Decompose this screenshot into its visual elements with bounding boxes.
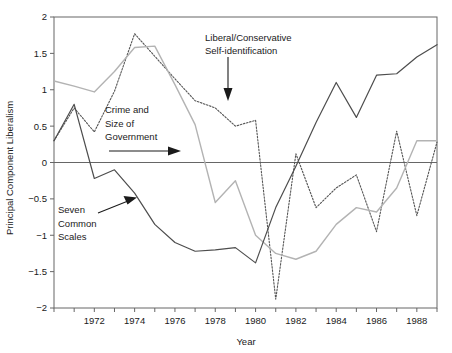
annotation-text-line: Common: [58, 218, 97, 229]
annotation-text-line: Size of: [105, 118, 134, 129]
x-tick-label: 1976: [164, 315, 185, 326]
x-tick-label: 1984: [326, 315, 347, 326]
annotation-text-line: Liberal/Conservative: [205, 32, 292, 43]
x-tick-label: 1982: [285, 315, 306, 326]
y-tick-label: 1: [42, 84, 47, 95]
y-tick-label: 2: [42, 11, 47, 22]
y-tick-label: −2: [36, 302, 47, 313]
x-tick-label: 1980: [245, 315, 266, 326]
y-tick-label: 0: [42, 157, 47, 168]
x-tick-label: 1974: [124, 315, 145, 326]
annotation-text-line: Scales: [58, 231, 87, 242]
y-tick-label: 0.5: [34, 121, 47, 132]
annotation-text-line: Seven: [58, 204, 85, 215]
x-tick-label: 1972: [84, 315, 105, 326]
y-tick-label: −1.5: [28, 266, 47, 277]
x-tick-label: 1988: [406, 315, 427, 326]
y-tick-label: −0.5: [28, 193, 47, 204]
x-tick-label: 1986: [366, 315, 387, 326]
chart-figure: −2−1.5−1−0.500.511.52 197219741976197819…: [0, 0, 452, 353]
y-tick-label: 1.5: [34, 48, 47, 59]
y-tick-label: −1: [36, 230, 47, 241]
chart-svg: −2−1.5−1−0.500.511.52 197219741976197819…: [0, 0, 452, 353]
x-axis-label: Year: [236, 336, 255, 347]
annotation-text-line: Government: [105, 131, 158, 142]
x-tick-label: 1978: [205, 315, 226, 326]
annotation-text-line: Self-identification: [205, 45, 277, 56]
y-axis-label: Principal Component Liberalism: [4, 101, 15, 235]
annotation-text-line: Crime and: [105, 104, 149, 115]
